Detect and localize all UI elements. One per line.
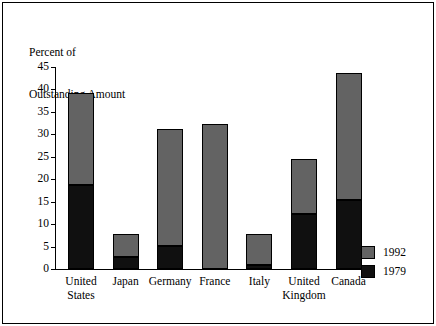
chart-legend: 19921979 — [361, 243, 406, 281]
y-axis-tick-mark — [51, 67, 56, 68]
x-axis-label-line: France — [193, 275, 238, 289]
bar-segment-1979 — [336, 200, 362, 269]
x-axis-label-france: France — [193, 275, 238, 289]
x-axis-label-line: United — [282, 275, 327, 289]
bar-segment-1992 — [246, 234, 272, 265]
chart-title-line-1: Percent of — [29, 45, 125, 59]
bar-segment-1992 — [157, 129, 183, 246]
y-axis-tick-mark — [51, 202, 56, 203]
x-axis-label-japan: Japan — [103, 275, 148, 289]
bar-france — [202, 125, 228, 269]
y-axis-tick-mark — [51, 112, 56, 113]
y-axis-tick-mark — [51, 179, 56, 180]
y-axis-tick-label: 20 — [38, 173, 50, 185]
chart-figure: Percent of Outstanding Amount 0510152025… — [0, 0, 436, 326]
bar-segment-1992 — [291, 159, 317, 214]
bar-segment-1979 — [68, 185, 94, 269]
bar-united-kingdom — [291, 160, 317, 269]
x-axis-line — [55, 269, 369, 270]
plot-area: 051015202530354045 UnitedStatesJapanGerm… — [56, 67, 368, 269]
x-axis-label-line: Kingdom — [282, 289, 327, 303]
x-axis-label-united-states: UnitedStates — [59, 275, 104, 302]
y-axis-tick-mark — [51, 224, 56, 225]
y-axis-tick-label: 5 — [43, 241, 49, 253]
legend-item-1979: 1979 — [361, 262, 406, 281]
bar-japan — [113, 235, 139, 269]
x-axis-label-italy: Italy — [237, 275, 282, 289]
y-axis-tick-label: 35 — [38, 106, 50, 118]
y-axis-tick-mark — [51, 134, 56, 135]
x-axis-label-line: Germany — [148, 275, 193, 289]
figure-frame: Percent of Outstanding Amount 0510152025… — [2, 2, 434, 324]
x-axis-label-germany: Germany — [148, 275, 193, 289]
y-axis-tick-label: 45 — [38, 61, 50, 73]
y-axis-tick-mark — [51, 247, 56, 248]
bar-segment-1979 — [291, 214, 317, 269]
legend-label-1992: 1992 — [383, 247, 406, 259]
y-axis-tick-label: 15 — [38, 196, 50, 208]
y-axis-tick-label: 25 — [38, 151, 50, 163]
y-axis-tick-mark — [51, 157, 56, 158]
y-axis-tick-label: 10 — [38, 218, 50, 230]
x-axis-label-line: United — [59, 275, 104, 289]
y-axis-tick-mark — [51, 269, 56, 270]
bar-united-states — [68, 94, 94, 269]
bar-segment-1992 — [202, 124, 228, 269]
bar-segment-1992 — [68, 93, 94, 185]
y-axis-tick-label: 0 — [43, 263, 49, 275]
legend-swatch-1979 — [361, 265, 375, 278]
bar-germany — [157, 130, 183, 269]
x-axis-label-line: Japan — [103, 275, 148, 289]
y-axis-line — [55, 67, 56, 270]
bar-segment-1992 — [336, 73, 362, 201]
y-axis-tick-label: 30 — [38, 129, 50, 141]
x-axis-label-line: States — [59, 289, 104, 303]
bar-italy — [246, 235, 272, 269]
bar-canada — [336, 74, 362, 269]
bar-segment-1979 — [113, 257, 139, 269]
legend-item-1992: 1992 — [361, 243, 406, 262]
y-axis-tick-label: 40 — [38, 84, 50, 96]
legend-swatch-1992 — [361, 246, 375, 259]
bar-segment-1979 — [246, 265, 272, 269]
y-axis-tick-mark — [51, 89, 56, 90]
legend-label-1979: 1979 — [383, 266, 406, 278]
bar-segment-1979 — [157, 246, 183, 269]
x-axis-label-united-kingdom: UnitedKingdom — [282, 275, 327, 302]
x-axis-label-line: Italy — [237, 275, 282, 289]
bar-segment-1992 — [113, 234, 139, 257]
